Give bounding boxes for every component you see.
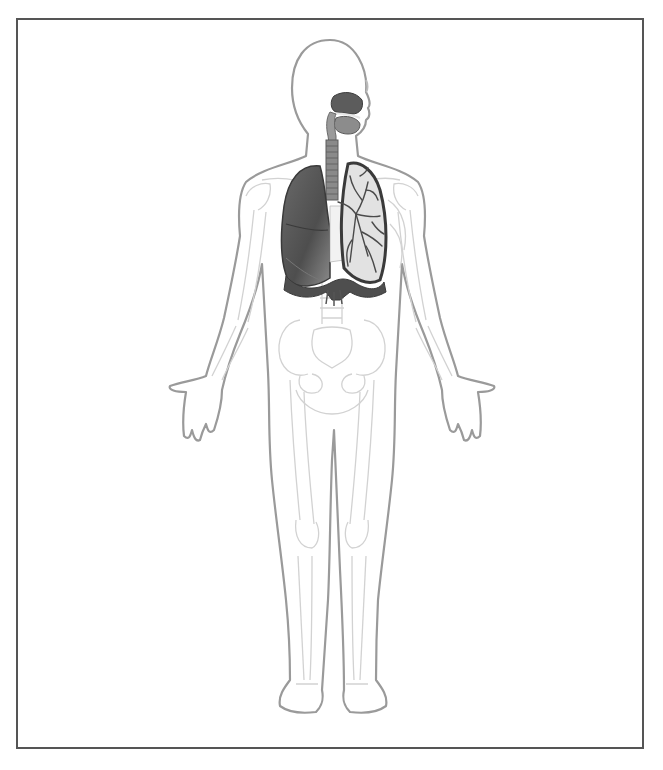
nasal-cavity: [331, 93, 362, 114]
oral-cavity: [334, 116, 360, 134]
anatomy-illustration: [0, 0, 663, 770]
trachea: [326, 140, 338, 200]
